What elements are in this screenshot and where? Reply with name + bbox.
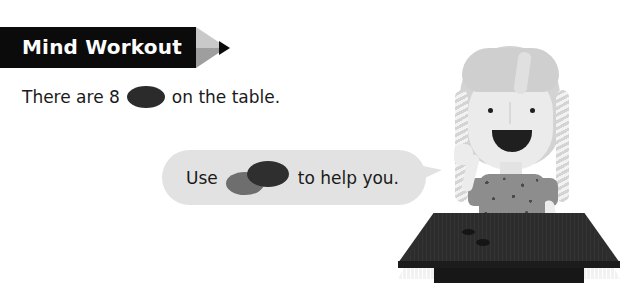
table-counter-icon (476, 239, 490, 246)
nose-line-icon (509, 102, 511, 124)
wooden-table (398, 213, 620, 279)
table-base (434, 268, 584, 283)
dot-eye-right-icon (530, 108, 535, 113)
mind-workout-banner: Mind Workout (0, 27, 242, 68)
banner-title: Mind Workout (22, 34, 192, 60)
worksheet-page: Mind Workout There are 8 on the table. U… (0, 0, 627, 303)
problem-statement: There are 8 on the table. (22, 86, 280, 108)
girl-illustration (438, 44, 588, 234)
problem-statement-after: on the table. (172, 87, 280, 107)
counter-disc-icon (127, 86, 165, 108)
counter-disc-dark-icon (247, 161, 289, 187)
speech-bubble-content: Use to help you. (186, 150, 399, 205)
table-edge (398, 261, 620, 268)
hair-parting (513, 51, 532, 94)
table-counter-icon (462, 229, 475, 235)
speech-bubble-text-before: Use (186, 168, 218, 188)
speech-bubble: Use to help you. (162, 150, 426, 205)
speech-bubble-text-after: to help you. (298, 168, 399, 188)
dot-eye-left-icon (488, 108, 493, 113)
hand-left-icon (454, 144, 473, 165)
problem-statement-before: There are 8 (22, 87, 120, 107)
counter-pair-icon (226, 161, 290, 195)
triangle-right-icon (219, 41, 230, 55)
hair-fringe (462, 48, 559, 92)
